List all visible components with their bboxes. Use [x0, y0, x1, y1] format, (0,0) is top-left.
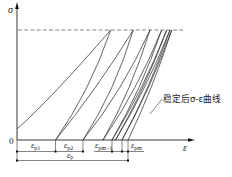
y-axis-arrow-icon: [15, 2, 19, 9]
label-epsilon-pm-minus-1: εpm−1: [95, 140, 112, 151]
dimension-tick: [55, 151, 57, 153]
dimension-tick: [16, 151, 18, 153]
dimension-tick: [16, 160, 18, 162]
loading-curve-1: [17, 30, 111, 129]
curve-label-leader-line: [150, 99, 162, 114]
dimension-row-increments: εp1 εp2 εpm−1 εpm: [16, 140, 144, 153]
loading-curve-5: [112, 30, 167, 140]
dimension-tick: [127, 151, 129, 153]
y-axis-label: σ: [8, 4, 14, 15]
origin-label: 0: [9, 136, 14, 146]
axes: σ ε 0: [8, 2, 195, 153]
dimension-tick: [127, 160, 129, 162]
stable-curve-label: 稳定后σ-ε曲线: [163, 93, 221, 104]
dimension-tick: [121, 151, 123, 153]
stress-strain-cyclic-diagram: σ ε 0 稳定后σ-ε曲线: [0, 0, 232, 177]
label-epsilon-p1: εp1: [31, 140, 40, 151]
unloading-curve-2: [83, 30, 133, 140]
dimension-tick: [111, 151, 113, 153]
x-axis-label: ε: [183, 142, 187, 153]
unloading-curve-4: [112, 30, 162, 140]
label-epsilon-pm: εpm: [131, 140, 142, 151]
unloading-curve-1: [56, 30, 111, 140]
hysteresis-cycles: [17, 30, 172, 140]
dimension-tick: [82, 151, 84, 153]
label-epsilon-p-total: εp: [67, 150, 73, 161]
x-axis-arrow-icon: [188, 138, 195, 142]
